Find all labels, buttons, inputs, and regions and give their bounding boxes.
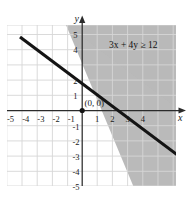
x-tick-label: -3 (37, 114, 44, 124)
x-tick-label: -5 (7, 114, 14, 124)
inequality-annotation: 3x + 4y ≥ 12 (109, 40, 158, 50)
x-tick-label: 3 (125, 114, 129, 124)
origin-point-dot (80, 108, 85, 113)
y-tick-label: -3 (72, 152, 79, 162)
inequality-graph: y x -5 -4 -3 -2 -1 1 2 3 4 5 4 2 1 -1 -2… (0, 0, 193, 198)
x-tick-label: 4 (141, 114, 146, 124)
y-tick-label: 2 (73, 76, 77, 86)
x-tick-label: 2 (110, 114, 114, 124)
coordinate-plane-svg: y x -5 -4 -3 -2 -1 1 2 3 4 5 4 2 1 -1 -2… (0, 0, 193, 198)
x-axis-label: x (177, 112, 183, 123)
y-tick-label: 5 (73, 30, 77, 40)
y-tick-label: -5 (72, 182, 79, 192)
x-tick-label: 1 (95, 114, 99, 124)
y-tick-label: -2 (72, 137, 79, 147)
y-axis-label: y (74, 13, 80, 24)
y-tick-label: -4 (72, 167, 80, 177)
x-tick-label: -2 (53, 114, 60, 124)
origin-point-label: (0, 0) (85, 98, 105, 108)
y-tick-label: 1 (73, 91, 77, 101)
y-tick-label: -1 (72, 122, 79, 132)
x-tick-label: -4 (22, 114, 30, 124)
